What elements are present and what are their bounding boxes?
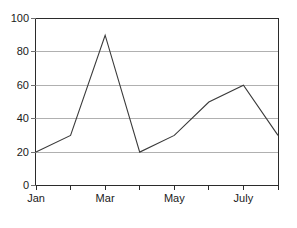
xtick-label-may: May (164, 192, 185, 204)
xtick-label-jan: Jan (27, 192, 45, 204)
x-axis-labels: Jan Mar May July (27, 192, 254, 204)
y-axis-labels: 100 80 60 40 20 0 (11, 12, 29, 191)
ytick-label-0: 0 (23, 179, 29, 191)
xtick-label-july: July (234, 192, 254, 204)
chart-canvas: 100 80 60 40 20 0 Jan Mar May July (0, 0, 297, 228)
ytick-label-20: 20 (17, 146, 29, 158)
xtick-label-mar: Mar (96, 192, 115, 204)
line-chart: 100 80 60 40 20 0 Jan Mar May July (0, 0, 297, 228)
ytick-label-60: 60 (17, 79, 29, 91)
ytick-label-80: 80 (17, 45, 29, 57)
plot-area-border (36, 19, 279, 186)
ytick-label-40: 40 (17, 112, 29, 124)
ytick-label-100: 100 (11, 12, 29, 24)
